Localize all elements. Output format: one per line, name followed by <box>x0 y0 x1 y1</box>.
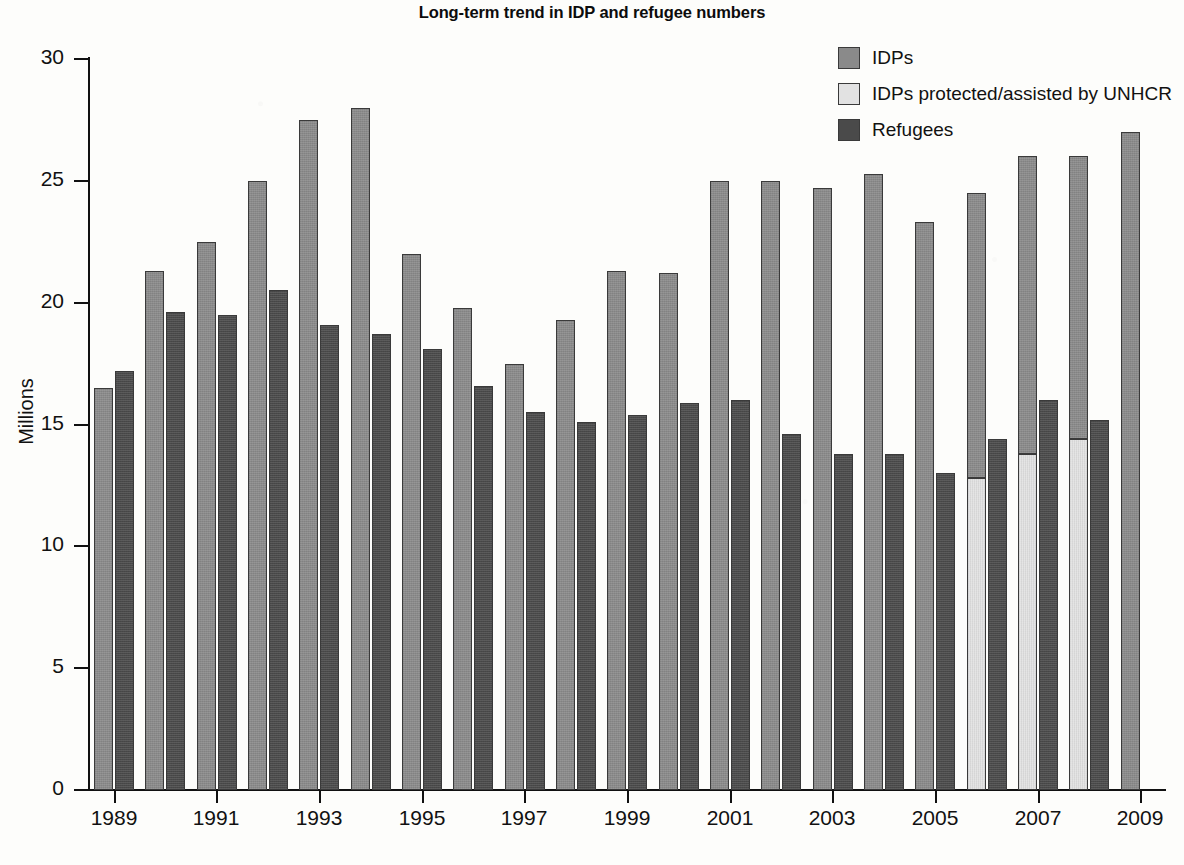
x-tick-label-1997: 1997 <box>484 806 564 830</box>
x-tick-label-1999: 1999 <box>587 806 667 830</box>
x-tick-label-1995: 1995 <box>382 806 462 830</box>
legend-item-0[interactable]: IDPs <box>838 42 1172 73</box>
x-tick-label-2003: 2003 <box>792 806 872 830</box>
legend-label-0: IDPs <box>872 47 913 69</box>
legend-item-1[interactable]: IDPs protected/assisted by UNHCR <box>838 78 1172 109</box>
x-tick-label-2005: 2005 <box>895 806 975 830</box>
chart-figure: Long-term trend in IDP and refugee numbe… <box>0 0 1184 865</box>
legend-swatch-idps <box>838 47 860 69</box>
x-tick-label-1993: 1993 <box>279 806 359 830</box>
x-tick-label-2009: 2009 <box>1100 806 1180 830</box>
legend-item-2[interactable]: Refugees <box>838 114 1172 145</box>
legend-label-2: Refugees <box>872 119 953 141</box>
x-tick-label-2007: 2007 <box>998 806 1078 830</box>
chart-legend: IDPsIDPs protected/assisted by UNHCRRefu… <box>838 42 1172 150</box>
legend-swatch-refugees <box>838 119 860 141</box>
legend-label-1: IDPs protected/assisted by UNHCR <box>872 83 1172 105</box>
x-tick-label-1989: 1989 <box>74 806 154 830</box>
x-tick-label-2001: 2001 <box>690 806 770 830</box>
x-tick-label-1991: 1991 <box>176 806 256 830</box>
legend-swatch-idps-unhcr <box>838 83 860 105</box>
